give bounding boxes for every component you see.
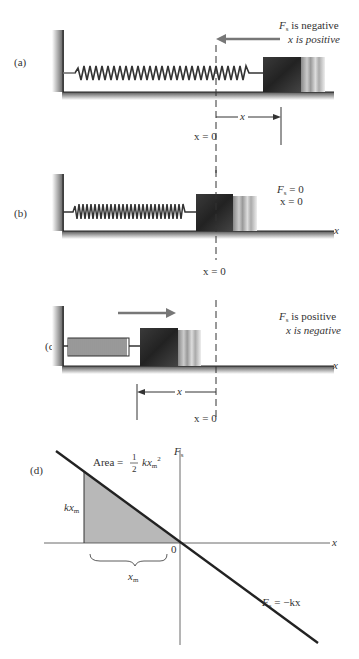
svg-text:kxm2: kxm2 xyxy=(142,455,161,470)
spring xyxy=(63,66,263,80)
origin-label: 0 xyxy=(171,543,177,555)
x-zero-label: x = 0 xyxy=(203,265,226,277)
svg-text:Fs is negative: Fs is negative xyxy=(278,19,339,33)
x-axis-label: x xyxy=(332,359,338,371)
spring-force-figure: (a) Fs is negative x is positive x x = 0… xyxy=(0,0,359,659)
force-arrow-head-icon xyxy=(166,308,176,318)
note-c-line2: x is negative xyxy=(285,324,341,336)
svg-text:Fs = −kx: Fs = −kx xyxy=(261,596,301,610)
svg-text:xm: xm xyxy=(127,570,139,584)
panel-a: (a) Fs is negative x is positive x x = 0 xyxy=(14,19,340,175)
x-zero-label: x = 0 xyxy=(194,130,217,142)
x-axis-label: x xyxy=(333,224,339,236)
panel-d-graph: (d) x Fs 0 Area = 1 2 kxm2 kxm xm Fs = −… xyxy=(30,445,337,645)
svg-text:1: 1 xyxy=(132,452,137,462)
svg-text:kxm: kxm xyxy=(64,501,80,515)
force-arrow-head-icon xyxy=(216,34,226,44)
panel-b-label: (b) xyxy=(14,207,27,220)
wall xyxy=(52,30,64,92)
panel-c: (c) x Fs is positive x is negative x x =… xyxy=(45,300,341,424)
panel-a-label: (a) xyxy=(14,56,27,69)
note-b-line2: x = 0 xyxy=(280,195,303,207)
x-axis-label: x xyxy=(331,536,337,548)
block xyxy=(140,328,178,366)
spring xyxy=(63,204,196,219)
force-line xyxy=(56,451,318,643)
block xyxy=(263,57,301,92)
panel-b: (b) x Fs = 0 x = 0 x = 0 xyxy=(14,170,339,277)
spring xyxy=(63,338,140,356)
svg-text:Fs is positive: Fs is positive xyxy=(278,310,336,324)
svg-text:Area =: Area = xyxy=(93,456,123,468)
block xyxy=(196,194,233,231)
svg-text:Fs: Fs xyxy=(173,445,184,459)
block-motion-blur xyxy=(301,57,325,92)
panel-d-label: (d) xyxy=(30,464,43,477)
svg-text:2: 2 xyxy=(132,464,137,474)
displacement-label: x xyxy=(239,110,245,122)
width-brace xyxy=(90,554,167,566)
x-zero-label: x = 0 xyxy=(194,412,217,424)
floor xyxy=(62,92,334,100)
note-a-line2: x is positive xyxy=(287,33,340,45)
displacement-label: x xyxy=(176,385,182,397)
